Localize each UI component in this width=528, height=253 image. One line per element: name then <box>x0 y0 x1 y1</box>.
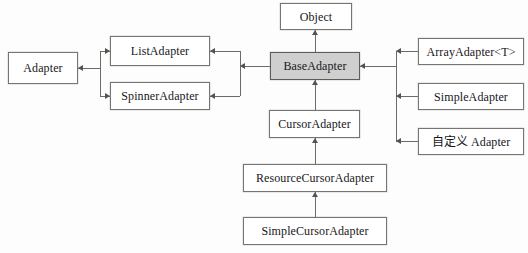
edge-resource-to-cursor-arrowhead <box>312 138 318 143</box>
edge-right-bus-to-base <box>360 66 396 67</box>
node-custom-adapter[interactable]: 自定义 Adapter <box>418 128 524 155</box>
edge-right-bus-arrowhead <box>360 63 365 69</box>
node-simple-adapter-label: SimpleAdapter <box>434 90 508 102</box>
edge-middle-bus-vertical <box>240 51 241 96</box>
node-list-adapter[interactable]: ListAdapter <box>110 36 210 66</box>
edge-array-to-base-arrowhead <box>396 48 401 54</box>
edge-cursor-to-base-arrowhead <box>312 80 318 85</box>
node-spinner-adapter[interactable]: SpinnerAdapter <box>110 82 210 110</box>
edge-base-to-object-arrowhead <box>312 30 318 35</box>
edge-base-to-spinner-arrowhead <box>210 93 215 99</box>
node-base-adapter[interactable]: BaseAdapter <box>270 52 360 80</box>
node-array-adapter[interactable]: ArrayAdapter<T> <box>418 38 524 65</box>
node-spinner-adapter-label: SpinnerAdapter <box>121 90 198 102</box>
node-resource-cursor-adapter[interactable]: ResourceCursorAdapter <box>243 164 387 192</box>
node-object[interactable]: Object <box>280 3 352 30</box>
node-adapter[interactable]: Adapter <box>8 52 78 84</box>
edge-simple-cursor-to-resource-arrowhead <box>312 192 318 197</box>
class-diagram-canvas: Object BaseAdapter Adapter ListAdapter S… <box>0 0 528 253</box>
node-adapter-label: Adapter <box>23 62 62 74</box>
node-custom-adapter-label: 自定义 Adapter <box>432 135 511 147</box>
edge-base-to-list-arrowhead <box>210 48 215 54</box>
edge-simple-to-base-arrowhead <box>396 93 401 99</box>
node-simple-adapter[interactable]: SimpleAdapter <box>418 83 524 110</box>
edge-custom-to-base-arrowhead <box>396 138 401 144</box>
node-cursor-adapter-label: CursorAdapter <box>278 118 351 130</box>
node-simple-cursor-adapter[interactable]: SimpleCursorAdapter <box>243 217 387 245</box>
node-object-label: Object <box>300 10 333 22</box>
edge-left-bus-vertical <box>100 51 101 96</box>
node-array-adapter-label: ArrayAdapter<T> <box>427 45 516 57</box>
node-base-adapter-label: BaseAdapter <box>283 60 346 72</box>
edge-bus-to-adapter-arrowhead <box>78 65 83 71</box>
node-simple-cursor-adapter-label: SimpleCursorAdapter <box>261 225 368 237</box>
node-list-adapter-label: ListAdapter <box>131 45 189 57</box>
node-resource-cursor-adapter-label: ResourceCursorAdapter <box>256 172 374 184</box>
node-cursor-adapter[interactable]: CursorAdapter <box>269 110 360 138</box>
edge-middle-bus-arrowhead <box>240 63 245 69</box>
